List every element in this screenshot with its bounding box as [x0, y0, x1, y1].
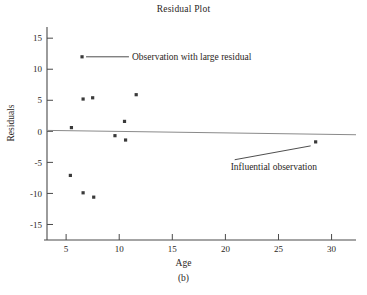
y-tick-label: -10 [30, 189, 42, 199]
data-point [113, 134, 116, 137]
zero-line [47, 130, 356, 134]
y-tick-label: 5 [38, 95, 43, 105]
x-tick-label: 15 [168, 244, 178, 254]
data-point [91, 96, 94, 99]
y-tick-label: -15 [30, 220, 42, 230]
x-tick-label: 5 [64, 244, 69, 254]
x-ticks-group: 51015202530 [64, 234, 337, 254]
residual-plot-figure: Residual Plot Residuals Age 151050-5-10-… [0, 0, 367, 295]
annotation-label: Observation with large residual [132, 52, 252, 62]
y-tick-label: -5 [35, 158, 43, 168]
x-tick-label: 10 [115, 244, 125, 254]
figure-caption: (b) [0, 273, 367, 283]
data-point [69, 174, 72, 177]
y-tick-label: 10 [33, 64, 43, 74]
data-point [82, 191, 85, 194]
data-point [314, 140, 317, 143]
data-point [135, 93, 138, 96]
x-tick-label: 25 [274, 244, 284, 254]
data-point [80, 55, 83, 58]
data-point [82, 97, 85, 100]
x-tick-label: 30 [327, 244, 337, 254]
data-point [92, 196, 95, 199]
zero-reference-line [47, 130, 356, 134]
data-point [124, 138, 127, 141]
scatter-plot-canvas: 151050-5-10-15 51015202530 Observation w… [0, 0, 367, 295]
annotation-leader-line [235, 146, 311, 160]
y-ticks-group: 151050-5-10-15 [30, 33, 53, 229]
x-tick-label: 20 [221, 244, 231, 254]
data-point [123, 120, 126, 123]
data-points-group [69, 55, 317, 199]
data-point [70, 126, 73, 129]
y-tick-label: 15 [33, 33, 43, 43]
annotations-group: Observation with large residualInfluenti… [86, 52, 317, 172]
annotation-label: Influential observation [231, 162, 318, 172]
y-tick-label: 0 [38, 127, 43, 137]
